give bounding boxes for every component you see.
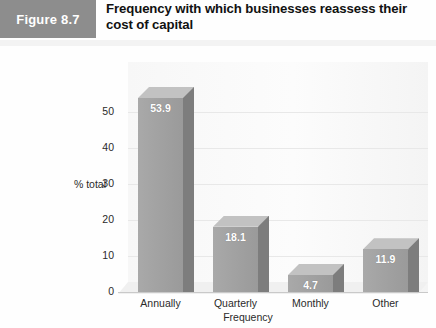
bar-side-face <box>183 87 194 292</box>
x-tick-label: Quarterly <box>194 297 278 309</box>
bar-side-face <box>258 216 269 292</box>
x-axis-title: Frequency <box>168 311 328 323</box>
y-tick-label: 40 <box>88 141 114 153</box>
y-tick-label: 20 <box>88 213 114 225</box>
bar-value-label: 18.1 <box>213 231 258 243</box>
bar-column: 53.9 <box>138 87 194 292</box>
x-tick-label: Monthly <box>269 297 353 309</box>
figure-root: Figure 8.7 Frequency with which business… <box>0 0 436 328</box>
y-axis-title: % total <box>60 178 106 190</box>
bar-value-label: 4.7 <box>288 279 333 291</box>
y-tick-label: 0 <box>88 285 114 297</box>
x-tick-label: Annually <box>119 297 203 309</box>
bar-column: 11.9 <box>363 238 419 292</box>
chart-area: 01020304050 % total 53.918.14.711.9 Annu… <box>0 0 436 328</box>
x-tick-label: Other <box>344 297 428 309</box>
bar-column: 4.7 <box>288 264 344 292</box>
bar-front-face <box>138 98 183 292</box>
bar-value-label: 11.9 <box>363 253 408 265</box>
bar-value-label: 53.9 <box>138 102 183 114</box>
y-tick-label: 10 <box>88 249 114 261</box>
y-tick-label: 50 <box>88 105 114 117</box>
x-axis-line <box>118 292 428 293</box>
bar-column: 18.1 <box>213 216 269 292</box>
